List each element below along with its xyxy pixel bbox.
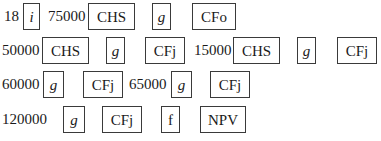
key-cfo[interactable]: CFo (192, 3, 236, 30)
value-75000: 75000 (48, 3, 86, 30)
key-chs[interactable]: CHS (42, 37, 89, 64)
key-cfj[interactable]: CFj (83, 71, 123, 98)
key-i[interactable]: i (23, 3, 40, 30)
key-g[interactable]: g (63, 106, 85, 133)
key-chs[interactable]: CHS (233, 37, 280, 64)
keystroke-row-2: 50000 CHS g CFj 15000 CHS g CFj (0, 37, 381, 64)
keystroke-row-3: 60000 g CFj 65000 g CFj (0, 71, 381, 98)
value-120000: 120000 (2, 106, 47, 133)
key-g[interactable]: g (152, 3, 171, 30)
keystroke-row-4: 120000 g CFj f NPV (0, 106, 381, 133)
key-cfj[interactable]: CFj (145, 37, 185, 64)
key-npv[interactable]: NPV (200, 106, 246, 133)
value-65000: 65000 (129, 71, 167, 98)
value-50000: 50000 (2, 37, 40, 64)
key-f[interactable]: f (161, 106, 180, 133)
key-g[interactable]: g (171, 71, 192, 98)
key-g[interactable]: g (106, 37, 125, 64)
key-g[interactable]: g (43, 71, 64, 98)
key-cfj[interactable]: CFj (210, 71, 250, 98)
key-chs[interactable]: CHS (88, 3, 135, 30)
value-60000: 60000 (2, 71, 40, 98)
value-18: 18 (4, 3, 19, 30)
value-15000: 15000 (194, 37, 232, 64)
key-g[interactable]: g (297, 37, 316, 64)
key-cfj[interactable]: CFj (102, 106, 142, 133)
key-cfj[interactable]: CFj (337, 37, 377, 64)
keystroke-row-1: 18 i 75000 CHS g CFo (0, 3, 381, 30)
